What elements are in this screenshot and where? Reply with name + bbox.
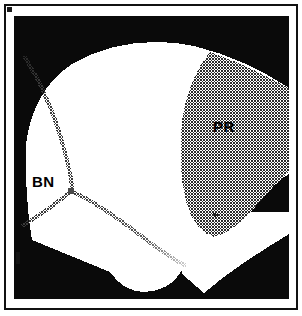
scan-artifact-edge — [16, 252, 20, 264]
figure-root: PR BN — [0, 0, 302, 316]
triple-junction — [68, 188, 75, 195]
region-label-pr: PR — [213, 119, 235, 134]
micrograph-canvas — [14, 16, 289, 299]
scan-artifact-corner — [7, 7, 12, 12]
region-label-bn: BN — [32, 174, 54, 189]
